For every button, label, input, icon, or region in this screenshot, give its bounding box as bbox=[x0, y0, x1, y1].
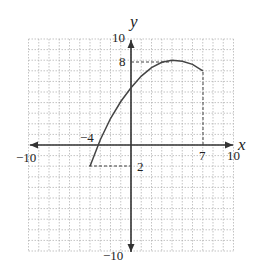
y-axis-label: y bbox=[128, 12, 138, 31]
x-tick-neg10: −10 bbox=[16, 150, 36, 165]
y-axis bbox=[128, 40, 135, 252]
y-tick-8: 8 bbox=[119, 54, 126, 69]
x-tick-7: 7 bbox=[199, 148, 206, 163]
y-axis-up-arrow-icon bbox=[128, 40, 135, 48]
dashed-guides bbox=[89, 62, 203, 166]
y-tick-neg2: 2 bbox=[137, 159, 144, 174]
y-tick-neg10: −10 bbox=[103, 248, 123, 263]
y-tick-10: 10 bbox=[112, 30, 125, 45]
x-tick-neg4: −4 bbox=[80, 130, 94, 145]
x-tick-10: 10 bbox=[227, 148, 240, 163]
function-graph: y x 10 8 2 −10 −10 −4 7 10 bbox=[0, 0, 261, 273]
x-axis-left-arrow-icon bbox=[30, 142, 38, 149]
